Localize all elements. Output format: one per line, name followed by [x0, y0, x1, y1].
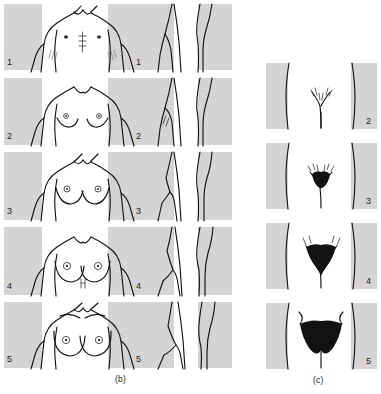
- stage-label-b3-front: 3: [7, 207, 12, 216]
- stage-label-b3-side: 3: [136, 207, 141, 216]
- stage-label-b2-side: 2: [136, 132, 141, 141]
- stage-label-b5-front: 5: [7, 355, 12, 364]
- panel-c-caption: (c): [313, 375, 324, 385]
- stage-label-b1-front: 1: [7, 58, 12, 67]
- stage-label-c5: 5: [366, 357, 371, 366]
- tanner-stage-figure: 1 1 2 2: [0, 0, 381, 394]
- panel-b-caption: (b): [115, 374, 126, 384]
- stage-label-c3: 3: [366, 197, 371, 206]
- stage-label-b4-front: 4: [7, 282, 12, 291]
- c-row4-figures: [0, 0, 381, 394]
- stage-label-b4-side: 4: [136, 282, 141, 291]
- stage-label-b1-side: 1: [136, 58, 141, 67]
- stage-label-c4: 4: [366, 277, 371, 286]
- stage-label-b5-side: 5: [136, 355, 141, 364]
- stage-label-b2-front: 2: [7, 132, 12, 141]
- stage-label-c2: 2: [366, 117, 371, 126]
